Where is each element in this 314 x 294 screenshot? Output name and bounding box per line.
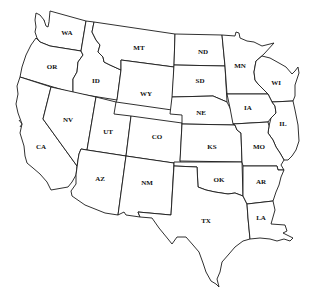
label-sd: SD: [196, 77, 205, 85]
label-ia: IA: [244, 104, 252, 112]
label-ok: OK: [214, 176, 225, 184]
label-az: AZ: [95, 175, 105, 183]
label-wi: WI: [271, 79, 281, 87]
label-wa: WA: [61, 29, 72, 37]
label-id: ID: [92, 77, 100, 85]
label-la: LA: [256, 214, 266, 222]
state-wy[interactable]: [116, 60, 174, 110]
label-nm: NM: [141, 179, 153, 187]
label-il: IL: [279, 120, 287, 128]
us-states-map: WA OR ID MT WY NV UT CO CA AZ NM ND SD N…: [0, 0, 314, 294]
label-tx: TX: [201, 217, 211, 225]
label-ks: KS: [207, 143, 216, 151]
label-ca: CA: [36, 143, 46, 151]
state-la[interactable]: [247, 201, 293, 241]
label-ut: UT: [103, 128, 113, 136]
label-co: CO: [152, 133, 163, 141]
label-ne: NE: [196, 109, 206, 117]
label-mt: MT: [133, 44, 145, 52]
label-ar: AR: [256, 178, 267, 186]
label-mo: MO: [253, 143, 266, 151]
label-wy: WY: [140, 90, 152, 98]
label-or: OR: [47, 63, 58, 71]
label-mn: MN: [234, 62, 246, 70]
label-nv: NV: [63, 116, 73, 124]
label-nd: ND: [198, 48, 208, 56]
